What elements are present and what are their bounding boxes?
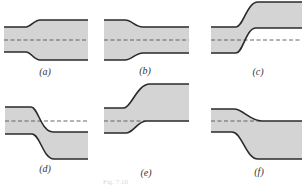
panel-e [104,84,189,133]
panel-label-e: (e) [140,167,151,178]
panel-label-a: (a) [39,66,51,77]
panel-label-c: (c) [252,66,263,77]
duct-fill [5,107,88,159]
figure-caption: Fig. 7.10 [103,178,128,186]
panel-b [104,20,189,60]
panel-label-f: (f) [254,166,263,177]
panel-d [5,107,88,159]
panel-c [211,2,302,53]
duct-fill [211,109,302,159]
panel-label-b: (b) [139,65,151,76]
panel-label-d: (d) [39,163,51,174]
panel-a [4,20,88,60]
duct-transition-figure [0,0,306,188]
panel-f [211,109,302,159]
